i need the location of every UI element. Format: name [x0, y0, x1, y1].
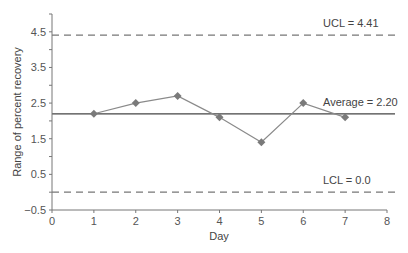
reference-lines	[52, 35, 395, 192]
lcl-label: LCL = 0.0	[323, 174, 371, 186]
y-axis-title: Range of percent recovery	[11, 47, 23, 177]
x-tick-label: 4	[216, 215, 222, 227]
diamond-marker-icon	[132, 99, 140, 107]
x-tick-label: 1	[91, 215, 97, 227]
x-tick-label: 3	[175, 215, 181, 227]
y-tick-label: 1.5	[31, 133, 46, 145]
reference-line-labels: UCL = 4.41Average = 2.20LCL = 0.0	[323, 17, 398, 186]
y-tick-label: 0.5	[31, 168, 46, 180]
x-tick-label: 7	[342, 215, 348, 227]
x-tick-label: 6	[300, 215, 306, 227]
data-series	[90, 92, 349, 146]
diamond-marker-icon	[341, 113, 349, 121]
x-tick-label: 8	[384, 215, 390, 227]
x-tick-label: 2	[133, 215, 139, 227]
y-tick-label: 4.5	[31, 26, 46, 38]
control-chart: 4.53.52.51.50.5−0.5 012345678 Day Range …	[0, 0, 408, 253]
y-tick-label: 3.5	[31, 61, 46, 73]
y-tick-label: 2.5	[31, 97, 46, 109]
y-tick-label: −0.5	[24, 204, 46, 216]
diamond-marker-icon	[174, 92, 182, 100]
y-axis-ticks: 4.53.52.51.50.5−0.5	[24, 14, 52, 216]
x-tick-label: 5	[258, 215, 264, 227]
ucl-label: UCL = 4.41	[323, 17, 379, 29]
x-tick-label: 0	[49, 215, 55, 227]
diamond-marker-icon	[216, 113, 224, 121]
diamond-marker-icon	[90, 110, 98, 118]
x-axis-title: Day	[209, 230, 229, 242]
x-axis-ticks: 012345678	[49, 210, 390, 227]
average-label: Average = 2.20	[323, 96, 398, 108]
